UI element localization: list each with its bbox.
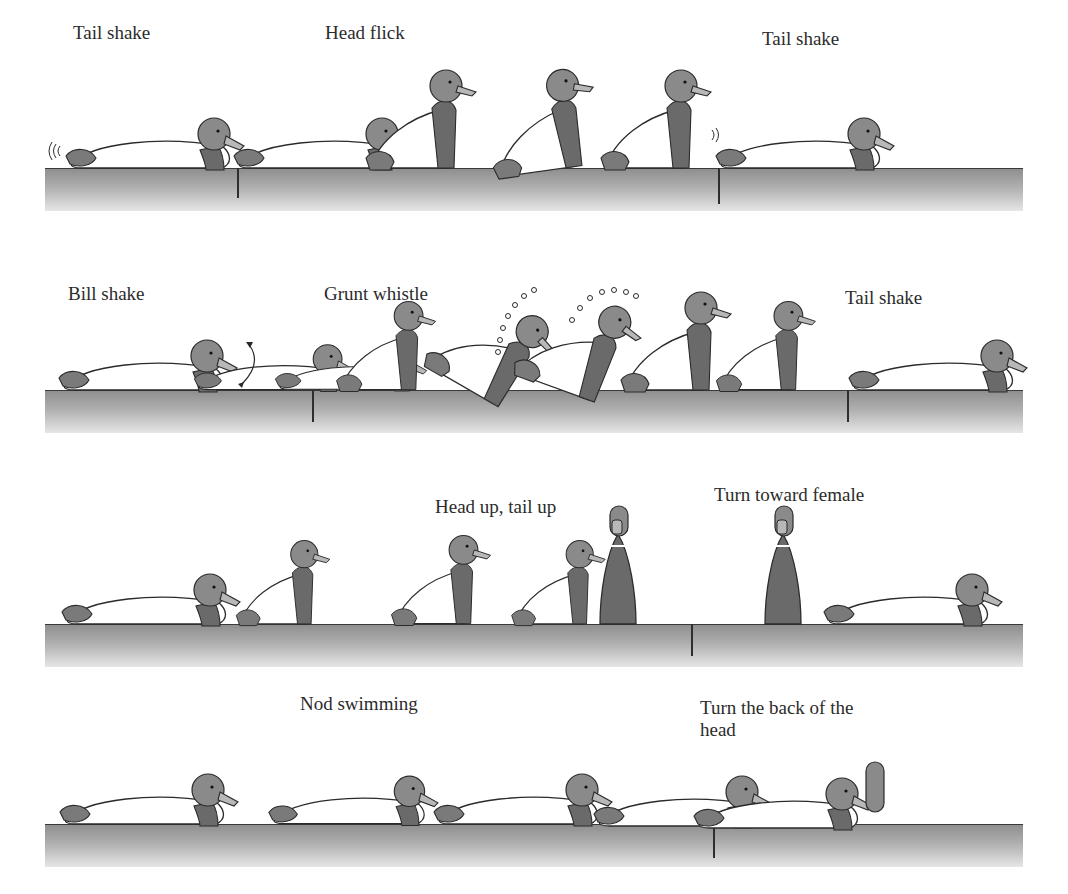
duck-illustrations [0,0,1068,894]
duck-icon [66,118,244,170]
